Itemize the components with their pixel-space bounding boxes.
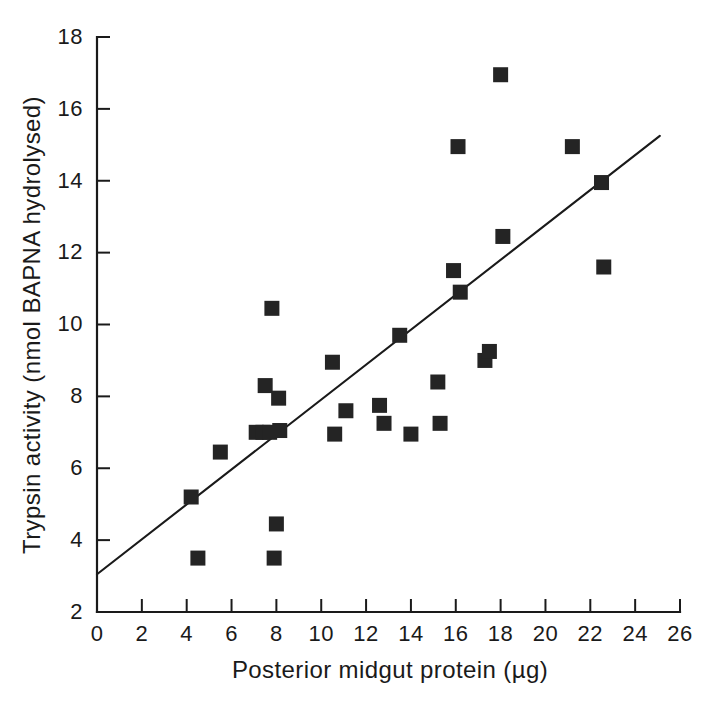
data-point-marker (565, 139, 580, 154)
x-tick-label: 6 (225, 621, 238, 646)
x-tick-label: 10 (308, 621, 333, 646)
data-point-marker (372, 398, 387, 413)
x-tick-label: 2 (135, 621, 148, 646)
data-point-marker (433, 416, 448, 431)
data-point-marker (403, 427, 418, 442)
x-tick-label: 12 (353, 621, 378, 646)
y-tick-label: 14 (58, 168, 83, 193)
scatter-plot-figure: 24681012141618 02468101214161820222426 P… (0, 0, 713, 702)
x-tick-label: 26 (667, 621, 692, 646)
y-tick-label: 10 (58, 311, 83, 336)
data-point-marker (267, 551, 282, 566)
data-point-marker (446, 263, 461, 278)
y-tick-label: 2 (70, 599, 83, 624)
x-tick-label: 20 (533, 621, 558, 646)
y-tick-label: 8 (70, 383, 83, 408)
data-point-marker (493, 67, 508, 82)
data-point-marker (430, 375, 445, 390)
data-point-marker (453, 285, 468, 300)
x-tick-label: 0 (91, 621, 104, 646)
data-point-marker (451, 139, 466, 154)
data-point-marker (495, 229, 510, 244)
x-tick-label: 18 (488, 621, 513, 646)
x-tick-label: 16 (443, 621, 468, 646)
data-point-marker (271, 391, 286, 406)
x-tick-label: 24 (622, 621, 647, 646)
data-point-marker (258, 378, 273, 393)
figure-background (0, 0, 713, 702)
y-tick-label: 12 (58, 239, 83, 264)
data-point-marker (392, 328, 407, 343)
data-point-marker (327, 427, 342, 442)
data-point-marker (190, 551, 205, 566)
data-point-marker (325, 355, 340, 370)
data-point-marker (272, 423, 287, 438)
x-tick-label: 8 (270, 621, 283, 646)
y-tick-label: 6 (70, 455, 83, 480)
data-point-marker (338, 403, 353, 418)
x-tick-label: 14 (398, 621, 423, 646)
y-tick-label: 16 (58, 96, 83, 121)
y-tick-label: 4 (70, 527, 83, 552)
x-tick-label: 4 (180, 621, 193, 646)
y-tick-label: 18 (58, 24, 83, 49)
data-point-marker (594, 175, 609, 190)
x-axis-title: Posterior midgut protein (µg) (232, 656, 548, 683)
data-point-marker (264, 301, 279, 316)
data-point-marker (213, 445, 228, 460)
data-point-marker (269, 516, 284, 531)
y-axis-title: Trypsin activity (nmol BAPNA hydrolysed) (18, 96, 45, 554)
x-tick-label: 22 (578, 621, 603, 646)
data-point-marker (596, 260, 611, 275)
data-point-marker (184, 490, 199, 505)
data-point-marker (377, 416, 392, 431)
data-point-marker (482, 344, 497, 359)
